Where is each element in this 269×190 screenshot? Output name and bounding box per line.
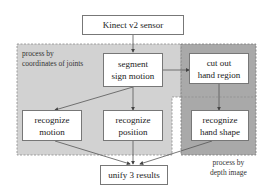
node-rec-position-line1: recognize [116,114,151,126]
region-joints-label: process by coordinates of joints [22,49,83,69]
node-rec-hand-line1: recognize [203,114,238,126]
node-segment-line2: sign motion [112,70,155,82]
node-unify-results: unify 3 results [100,165,168,185]
region-joints-label-line1: process by [22,49,83,59]
node-rec-hand-line2: hand shape [200,126,240,138]
node-recognize-hand-shape: recognize hand shape [191,110,249,141]
node-cutout-line1: cut out [207,57,232,69]
region-depth-label: process by depth image [210,158,247,178]
node-kinect-sensor-label: Kinect v2 sensor [103,19,164,31]
node-unify-label: unify 3 results [108,169,160,181]
region-depth-label-line2: depth image [210,168,247,178]
node-cutout-line2: hand region [198,69,241,81]
node-recognize-motion: recognize motion [22,110,82,141]
node-recognize-position: recognize position [103,110,163,141]
node-kinect-sensor: Kinect v2 sensor [82,15,184,35]
node-rec-position-line2: position [118,126,147,138]
node-cut-out-hand-region: cut out hand region [189,53,249,84]
node-rec-motion-line1: recognize [35,114,70,126]
node-segment-sign-motion: segment sign motion [103,53,163,87]
region-joints-label-line2: coordinates of joints [22,59,83,69]
node-rec-motion-line2: motion [39,126,65,138]
region-depth-label-line1: process by [210,158,247,168]
node-segment-line1: segment [118,58,148,70]
